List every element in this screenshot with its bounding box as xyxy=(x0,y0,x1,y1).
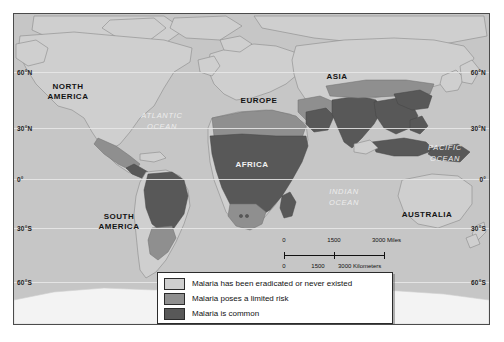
lat-label-60s-right: 60°S xyxy=(471,279,486,286)
scale-miles-unit: 3000 Miles xyxy=(372,237,401,243)
legend-item-common: Malaria is common xyxy=(164,306,392,321)
australia-land xyxy=(398,174,472,228)
legend-item-limited-risk: Malaria poses a limited risk xyxy=(164,291,392,306)
scale-bar: 0 1500 3000 Miles 0 1500 3000 Kilometers xyxy=(276,239,398,269)
lat-label-30s-right: 30°S xyxy=(471,225,486,232)
lat-label-60n-right: 60°N xyxy=(471,69,486,76)
south-america-limited xyxy=(148,226,176,260)
lat-label-0-right: 0° xyxy=(479,176,486,183)
screenshot-root: .e{fill:#cfcfcf;stroke:#8a8a8a;stroke-wi… xyxy=(0,0,504,342)
legend-label-common: Malaria is common xyxy=(192,309,259,318)
scale-miles-tick-0: 0 xyxy=(282,237,285,243)
lat-label-30s-left: 30°S xyxy=(17,225,32,232)
label-atlantic-ocean: ATLANTICOCEAN xyxy=(124,110,200,132)
map-legend: Malaria has been eradicated or never exi… xyxy=(157,272,393,324)
label-asia: ASIA xyxy=(314,72,360,82)
legend-item-eradicated: Malaria has been eradicated or never exi… xyxy=(164,276,392,291)
legend-label-eradicated: Malaria has been eradicated or never exi… xyxy=(192,279,352,288)
lat-label-30n-right: 30°N xyxy=(471,125,486,132)
world-map: .e{fill:#cfcfcf;stroke:#8a8a8a;stroke-wi… xyxy=(13,13,490,325)
scale-km-unit: 3000 Kilometers xyxy=(338,263,381,269)
madagascar-common xyxy=(280,192,296,218)
label-australia: AUSTRALIA xyxy=(391,210,463,220)
label-pacific-ocean: PACIFICOCEAN xyxy=(409,142,481,164)
legend-swatch-limited-risk xyxy=(164,293,185,305)
label-europe: EUROPE xyxy=(230,96,288,106)
lat-label-30n-left: 30°N xyxy=(17,125,32,132)
scale-miles-tick-1500: 1500 xyxy=(327,237,340,243)
scale-km-tick-1500: 1500 xyxy=(311,263,324,269)
scale-km-tick-0: 0 xyxy=(282,263,285,269)
lat-label-0-left: 0° xyxy=(17,176,24,183)
scale-bar-miles: 0 1500 3000 Miles xyxy=(276,239,394,252)
lat-label-60n-left: 60°N xyxy=(17,69,32,76)
label-africa: AFRICA xyxy=(222,160,282,170)
legend-swatch-common xyxy=(164,308,185,320)
legend-swatch-eradicated xyxy=(164,278,185,290)
lat-label-60s-left: 60°S xyxy=(17,279,32,286)
label-north-america: NORTHAMERICA xyxy=(28,82,108,101)
label-south-america: SOUTHAMERICA xyxy=(78,212,160,231)
label-indian-ocean: INDIANOCEAN xyxy=(309,186,379,208)
legend-label-limited-risk: Malaria poses a limited risk xyxy=(192,294,288,303)
